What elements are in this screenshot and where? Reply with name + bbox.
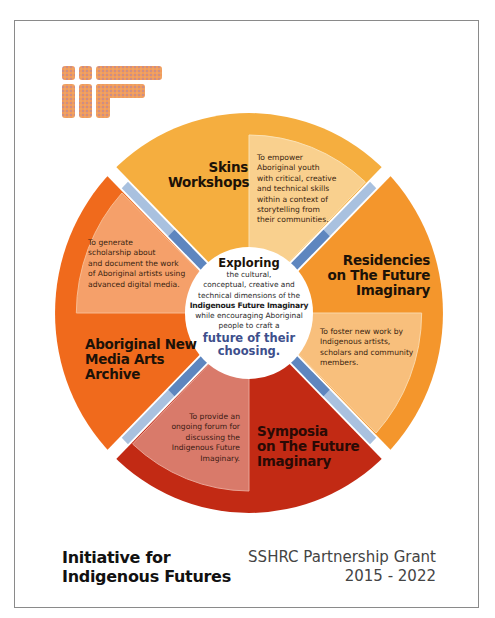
quadrant-desc-symposia: To provide an ongoing forum for discussi… <box>160 412 240 464</box>
quadrant-desc-residencies: To foster new work by Indigenous artists… <box>320 327 430 369</box>
center-bold-text: Indigenous Future Imaginary <box>186 301 312 311</box>
center-accent-text: future of their choosing. <box>186 332 312 358</box>
grant-info: SSHRC Partnership Grant 2015 - 2022 <box>248 548 436 586</box>
center-title: Exploring <box>186 256 312 270</box>
quadrant-desc-skins: To empower Aboriginal youth with critica… <box>257 153 357 226</box>
initiative-title: Initiative for Indigenous Futures <box>62 548 231 586</box>
center-body: the cultural, conceptual, creative and t… <box>186 270 312 301</box>
center-body-2: while encouraging Aboriginal people to c… <box>186 311 312 332</box>
quadrant-title-symposia: Symposia on The Future Imaginary <box>257 424 367 469</box>
quadrant-title-skins: Skins Workshops <box>168 160 248 190</box>
quadrant-desc-archive: To generate scholarship about and docume… <box>88 238 198 290</box>
quadrant-title-residencies: Residencies on The Future Imaginary <box>320 253 430 298</box>
center-statement: Exploring the cultural, conceptual, crea… <box>186 256 312 358</box>
